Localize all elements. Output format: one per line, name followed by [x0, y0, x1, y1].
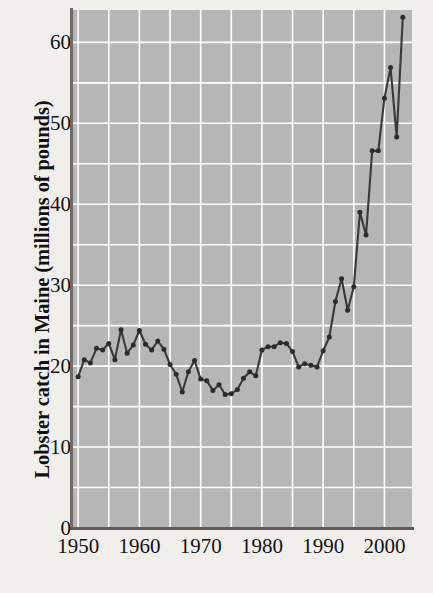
- plot-area: [72, 10, 412, 528]
- data-point: [327, 334, 332, 339]
- data-point: [155, 339, 160, 344]
- data-point: [76, 374, 81, 379]
- data-point: [186, 369, 191, 374]
- data-point: [217, 382, 222, 387]
- data-point: [376, 148, 381, 153]
- data-point: [204, 378, 209, 383]
- data-point: [394, 135, 399, 140]
- chart-line-plot: [72, 10, 412, 528]
- data-point: [131, 343, 136, 348]
- data-point: [284, 341, 289, 346]
- data-point: [296, 364, 301, 369]
- y-axis-title: Lobster catch in Maine (millions of poun…: [31, 30, 54, 550]
- data-point: [94, 346, 99, 351]
- data-point: [333, 299, 338, 304]
- data-point: [229, 391, 234, 396]
- data-point: [321, 348, 326, 353]
- data-point: [351, 284, 356, 289]
- data-point: [382, 96, 387, 101]
- gridlines: [72, 10, 412, 528]
- data-point: [302, 361, 307, 366]
- data-point: [198, 377, 203, 382]
- data-point: [357, 210, 362, 215]
- data-point: [125, 351, 130, 356]
- data-point: [174, 372, 179, 377]
- data-point: [272, 344, 277, 349]
- data-point: [210, 388, 215, 393]
- y-axis-spine: [70, 8, 73, 530]
- x-tick-label: 1980: [222, 534, 302, 559]
- data-point: [180, 390, 185, 395]
- data-point: [278, 340, 283, 345]
- data-point: [241, 376, 246, 381]
- data-point: [192, 358, 197, 363]
- data-point: [308, 363, 313, 368]
- x-tick-label: 1990: [283, 534, 363, 559]
- data-point: [290, 349, 295, 354]
- data-point: [112, 357, 117, 362]
- data-point: [223, 392, 228, 397]
- data-point: [82, 357, 87, 362]
- data-point: [315, 364, 320, 369]
- data-point: [143, 342, 148, 347]
- data-point: [247, 369, 252, 374]
- data-point: [235, 387, 240, 392]
- x-tick-label: 1970: [161, 534, 241, 559]
- data-point: [119, 327, 124, 332]
- data-point: [370, 148, 375, 153]
- data-point: [137, 328, 142, 333]
- data-point: [149, 347, 154, 352]
- data-point: [339, 276, 344, 281]
- data-point: [364, 233, 369, 238]
- x-tick-label: 2000: [344, 534, 424, 559]
- data-point: [100, 347, 105, 352]
- data-point: [88, 360, 93, 365]
- data-point: [106, 341, 111, 346]
- data-point-markers: [76, 15, 406, 397]
- x-axis-spine: [70, 527, 414, 530]
- data-point: [168, 362, 173, 367]
- lobster-catch-chart-figure: Lobster catch in Maine (millions of poun…: [0, 0, 433, 593]
- data-point: [259, 347, 264, 352]
- data-point: [161, 347, 166, 352]
- data-point: [400, 15, 405, 20]
- data-point: [253, 373, 258, 378]
- x-tick-label: 1960: [99, 534, 179, 559]
- data-point: [345, 308, 350, 313]
- data-point: [388, 65, 393, 70]
- data-point: [266, 344, 271, 349]
